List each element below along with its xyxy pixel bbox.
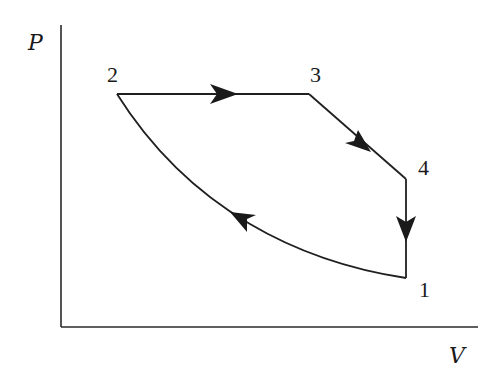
x-axis-label: V	[449, 343, 467, 368]
process-1-2	[117, 94, 406, 278]
arrow-up-left-icon	[230, 212, 256, 232]
axes: P V	[27, 25, 478, 368]
point-label-2: 2	[107, 62, 118, 87]
pv-diagram: P V 2 3 4 1	[0, 0, 503, 378]
point-label-1: 1	[419, 277, 430, 302]
y-axis-label: P	[27, 30, 44, 55]
arrow-down-right-icon	[345, 130, 371, 152]
point-label-3: 3	[310, 62, 321, 87]
point-labels: 2 3 4 1	[107, 62, 430, 302]
cycle	[117, 94, 406, 278]
arrows	[210, 84, 416, 242]
point-label-4: 4	[418, 155, 429, 180]
